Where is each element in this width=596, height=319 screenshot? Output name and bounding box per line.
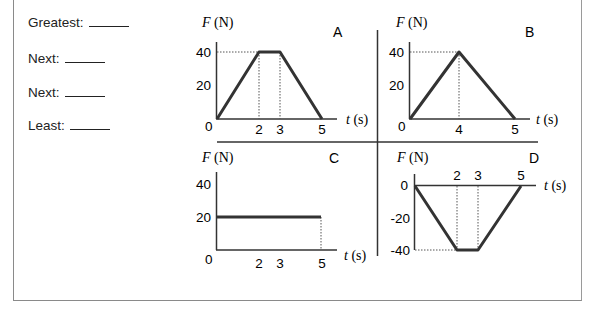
graph-letter: C	[329, 150, 339, 166]
x-axis-label: t (s)	[544, 178, 567, 194]
y-tick: 40	[196, 45, 211, 60]
graph-a: F (N) A 40 20 0 2 3 5 t (s)	[196, 15, 369, 137]
y-tick: 40	[389, 45, 404, 60]
x-tick: 3	[276, 122, 284, 137]
y-axis-label: F (N)	[201, 150, 234, 166]
x-tick: 3	[276, 256, 284, 271]
y-tick: -20	[390, 211, 410, 226]
graph-letter: B	[525, 24, 534, 40]
x-axis-label: t (s)	[536, 112, 559, 128]
graph-b: F (N) B 40 20 0 4 5 t (s)	[389, 15, 559, 137]
x-tick: 5	[318, 122, 326, 137]
y-tick: 40	[196, 177, 211, 192]
y-tick: 20	[196, 210, 211, 225]
force-curve	[410, 52, 515, 119]
origin-label: 0	[205, 252, 213, 267]
x-tick: 2	[453, 168, 461, 183]
graph-letter: D	[529, 150, 539, 166]
graph-d: F (N) D 0 -20 -40 2 3 5 t (s)	[390, 150, 566, 258]
origin-label: 0	[398, 119, 406, 134]
x-tick: 5	[318, 256, 326, 271]
graph-letter: A	[333, 24, 343, 40]
y-tick: 20	[196, 78, 211, 93]
y-axis-label: F (N)	[396, 150, 429, 166]
x-axis-label: t (s)	[344, 248, 367, 264]
x-tick: 5	[517, 168, 525, 183]
y-tick: 0	[400, 178, 408, 193]
y-tick: 20	[389, 78, 404, 93]
graphs-canvas: F (N) A 40 20 0 2 3 5 t (s) F (N) B 40 2…	[0, 0, 596, 319]
y-axis-label: F (N)	[201, 15, 234, 31]
force-curve	[415, 186, 521, 250]
y-tick: -40	[390, 243, 410, 258]
x-tick: 2	[255, 122, 263, 137]
x-tick: 5	[511, 122, 519, 137]
x-tick: 4	[455, 122, 463, 137]
x-axis-label: t (s)	[346, 112, 369, 128]
x-tick: 2	[255, 256, 263, 271]
y-axis-label: F (N)	[395, 15, 428, 31]
origin-label: 0	[205, 119, 213, 134]
x-tick: 3	[474, 168, 482, 183]
graph-c: F (N) C 40 20 0 2 3 5 t (s)	[196, 150, 367, 271]
force-curve	[217, 52, 322, 119]
